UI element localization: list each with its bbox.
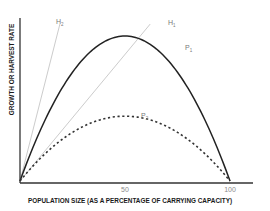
label-p2: P2 — [141, 112, 149, 121]
label-h2: H2 — [56, 18, 64, 27]
x-tick-label-50: 50 — [121, 186, 129, 193]
series-p2 — [20, 116, 230, 181]
y-axis-title: GROWTH OR HARVEST RATE — [8, 23, 15, 115]
x-tick-labels: 50100 — [121, 186, 236, 193]
plot-marks — [20, 24, 230, 181]
curve-labels: H1H2P1P2 — [56, 18, 193, 121]
x-tick-label-100: 100 — [224, 186, 236, 193]
label-h1: H1 — [168, 19, 176, 28]
x-axis-title: POPULATION SIZE (AS A PERCENTAGE OF CARR… — [28, 197, 232, 205]
harvest-chart: GROWTH OR HARVEST RATE POPULATION SIZE (… — [0, 0, 270, 211]
label-p1: P1 — [185, 44, 193, 53]
